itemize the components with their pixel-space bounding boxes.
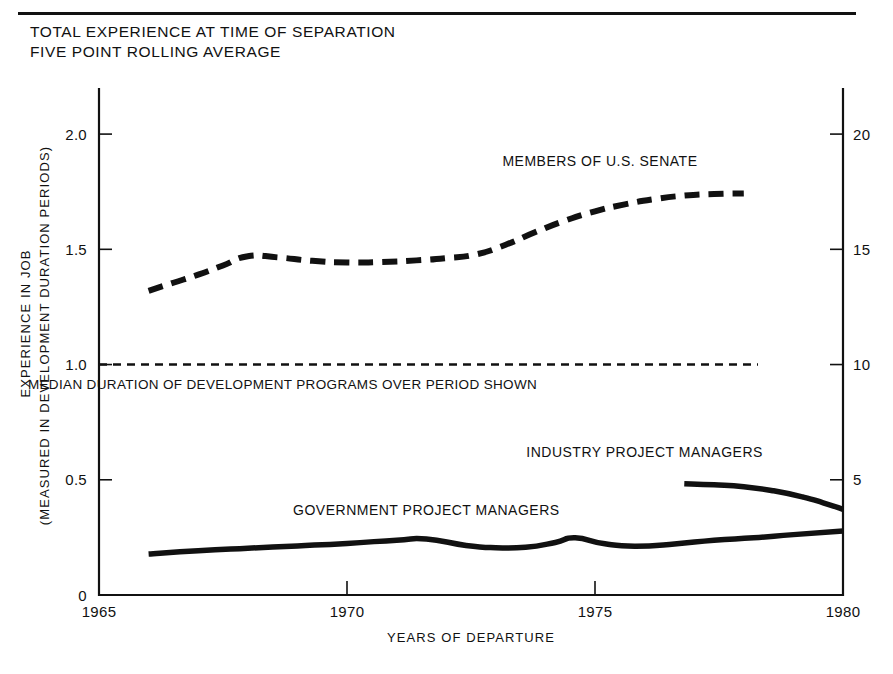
chart-plot-area: 00.51.01.52.051015201965197019751980YEAR… [0, 0, 893, 674]
y-tick-label: 1.5 [65, 241, 87, 258]
y2-tick-label: 20 [853, 126, 870, 143]
y-tick-label: 0.5 [65, 471, 87, 488]
chart-title-line-1: TOTAL EXPERIENCE AT TIME OF SEPARATION [30, 22, 396, 42]
series-label-1: GOVERNMENT PROJECT MANAGERS [293, 502, 560, 518]
series-line-1 [149, 531, 843, 554]
y-tick-label: 0 [78, 587, 87, 604]
clipped-text-above [150, 0, 270, 4]
series-label-2: INDUSTRY PROJECT MANAGERS [526, 444, 763, 460]
y2-tick-label: 10 [853, 356, 870, 373]
y-tick-label: 2.0 [65, 126, 87, 143]
y-axis-title: EXPERIENCE IN JOB [18, 249, 33, 397]
x-tick-label: 1970 [330, 603, 365, 620]
x-tick-label: 1975 [578, 603, 613, 620]
x-tick-label: 1980 [826, 603, 861, 620]
y2-tick-label: 5 [853, 471, 862, 488]
chart-title-line-2: FIVE POINT ROLLING AVERAGE [30, 42, 396, 62]
header-rule [18, 12, 856, 15]
x-axis-title: YEARS OF DEPARTURE [387, 630, 555, 645]
x-tick-label: 1965 [82, 603, 117, 620]
axis-frame [99, 88, 843, 595]
y-axis-subtitle: (MEASURED IN DEVELOPMENT DURATION PERIOD… [37, 146, 52, 525]
chart-figure: TOTAL EXPERIENCE AT TIME OF SEPARATION F… [0, 0, 893, 674]
series-line-2 [684, 484, 843, 510]
y-tick-label: 1.0 [65, 356, 87, 373]
series-label-0: MEMBERS OF U.S. SENATE [502, 153, 697, 169]
y2-tick-label: 15 [853, 241, 870, 258]
median-reference-label: MEDIAN DURATION OF DEVELOPMENT PROGRAMS … [28, 377, 537, 392]
series-line-0 [149, 194, 744, 291]
chart-title-block: TOTAL EXPERIENCE AT TIME OF SEPARATION F… [30, 22, 396, 62]
